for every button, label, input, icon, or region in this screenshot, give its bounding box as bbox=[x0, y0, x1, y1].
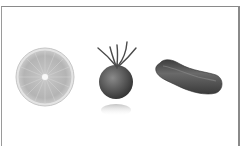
citrus-slice bbox=[16, 48, 74, 106]
tomato bbox=[98, 42, 136, 116]
cucumber bbox=[156, 60, 222, 94]
produce-photo bbox=[0, 0, 244, 146]
